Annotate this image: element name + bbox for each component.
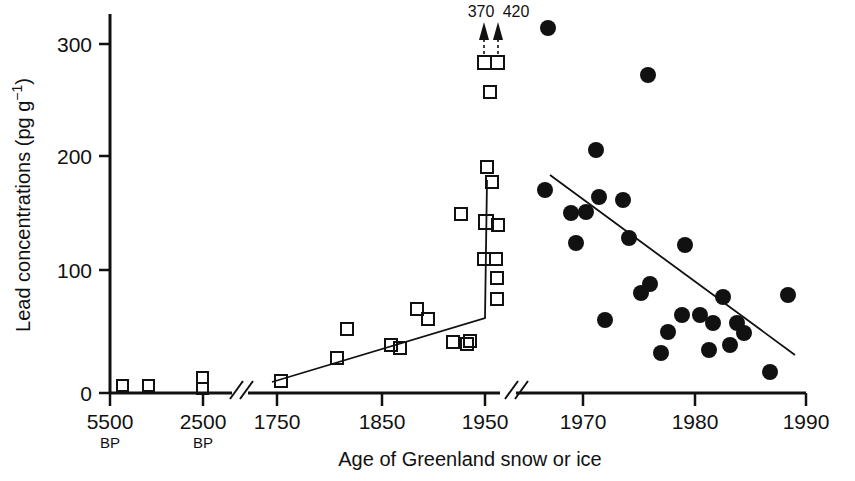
data-point-filled-circle xyxy=(736,325,752,341)
data-point-filled-circle xyxy=(653,345,669,361)
x-tick-label-1980: 1980 xyxy=(672,410,719,433)
y-axis-title-tail: ) xyxy=(12,78,34,85)
data-point-open-square-annotated-370 xyxy=(478,56,491,69)
data-point-filled-circle xyxy=(588,142,604,158)
y-axis-title-group: Lead concentrations (pg g−1) xyxy=(9,78,34,332)
data-point-filled-circle xyxy=(640,67,656,83)
x-tick-label-1750: 1750 xyxy=(254,410,301,433)
data-point-open-square xyxy=(143,380,154,391)
y-axis: 300 200 100 0 xyxy=(57,14,110,405)
series-filled-circles xyxy=(537,20,796,380)
figure-lead-concentrations: 300 200 100 0 Lead concentrations (pg g−… xyxy=(0,0,855,481)
annotation-label-370: 370 xyxy=(468,3,495,20)
data-point-open-square xyxy=(117,380,128,391)
data-point-filled-circle xyxy=(715,289,731,305)
data-point-open-square xyxy=(490,253,502,265)
y-tick-label-200: 200 xyxy=(57,145,92,168)
x-tick-label-1950: 1950 xyxy=(462,410,509,433)
y-axis-title: Lead concentrations (pg g xyxy=(12,101,34,332)
data-point-filled-circle xyxy=(621,230,637,246)
x-tick-label-1970: 1970 xyxy=(560,410,607,433)
data-point-filled-circle xyxy=(705,315,721,331)
data-point-open-square xyxy=(478,253,490,265)
arrow-up-icon xyxy=(479,22,489,40)
data-point-filled-circle xyxy=(537,182,553,198)
y-axis-title-exponent: −1 xyxy=(9,85,25,101)
data-point-open-square xyxy=(481,161,493,173)
y-tick-label-100: 100 xyxy=(57,259,92,282)
x-tick-label-2500bp: 2500 xyxy=(180,410,227,433)
data-point-filled-circle xyxy=(642,276,658,292)
data-point-open-square xyxy=(461,338,473,350)
data-point-open-square-annotated-420 xyxy=(491,56,504,69)
data-point-filled-circle xyxy=(701,342,717,358)
annotation-label-420: 420 xyxy=(503,3,530,20)
data-point-filled-circle xyxy=(597,312,613,328)
x-tick-label-5500bp: 5500 xyxy=(87,410,134,433)
y-tick-label-300: 300 xyxy=(57,33,92,56)
data-point-filled-circle xyxy=(674,307,690,323)
data-point-open-square xyxy=(455,208,467,220)
arrow-up-icon xyxy=(493,22,503,40)
x-tick-sublabel-5500bp: BP xyxy=(100,434,120,451)
data-point-filled-circle xyxy=(762,364,778,380)
data-point-open-square xyxy=(484,86,496,98)
x-tick-sublabel-2500bp: BP xyxy=(193,434,213,451)
x-tick-label-1990: 1990 xyxy=(783,410,830,433)
x-tick-label-1850: 1850 xyxy=(359,410,406,433)
data-point-filled-circle xyxy=(780,287,796,303)
chart-canvas: 300 200 100 0 Lead concentrations (pg g−… xyxy=(0,0,855,481)
data-point-filled-circle xyxy=(540,20,556,36)
series-open-squares xyxy=(117,56,504,394)
data-point-filled-circle xyxy=(722,337,738,353)
y-tick-label-0: 0 xyxy=(80,382,92,405)
x-axis-title: Age of Greenland snow or ice xyxy=(338,448,602,470)
data-point-filled-circle xyxy=(677,237,693,253)
svg-text:Lead concentrations (pg g−1): Lead concentrations (pg g−1) xyxy=(9,78,34,332)
data-point-filled-circle xyxy=(660,324,676,340)
data-point-open-square xyxy=(491,293,503,305)
data-point-filled-circle xyxy=(568,235,584,251)
data-point-filled-circle xyxy=(591,189,607,205)
data-point-filled-circle xyxy=(563,205,579,221)
data-point-open-square xyxy=(464,335,476,347)
annotation-group: 370 420 xyxy=(468,3,530,54)
data-point-open-square xyxy=(341,323,353,335)
data-point-open-square xyxy=(197,372,208,383)
data-point-open-square xyxy=(447,336,459,348)
data-point-open-square xyxy=(491,272,503,284)
data-point-filled-circle xyxy=(578,204,594,220)
data-point-filled-circle xyxy=(615,192,631,208)
